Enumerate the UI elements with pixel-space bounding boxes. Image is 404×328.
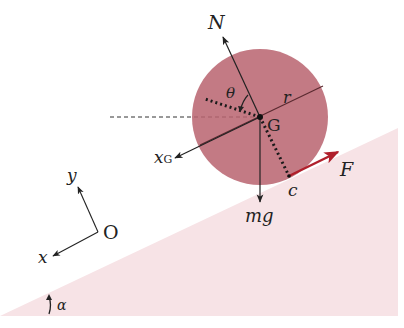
contact-point <box>287 174 291 178</box>
label-f: F <box>339 158 354 180</box>
rolling-disk-diagram: N θ r G xG c F mg y x O α <box>0 0 404 328</box>
center-point-g <box>257 114 263 120</box>
label-r: r <box>283 88 292 107</box>
label-o: O <box>103 221 119 243</box>
x-axis-arrow <box>53 232 98 256</box>
label-c: c <box>288 180 298 200</box>
inclined-plane <box>0 128 398 316</box>
label-n: N <box>207 11 226 33</box>
label-g: G <box>267 115 281 135</box>
label-y: y <box>66 165 77 185</box>
label-x: x <box>38 247 48 267</box>
y-axis-arrow <box>78 187 98 232</box>
label-theta: θ <box>226 84 235 102</box>
label-mg: mg <box>245 205 274 226</box>
label-alpha: α <box>57 297 67 313</box>
label-xg: xG <box>154 147 172 167</box>
